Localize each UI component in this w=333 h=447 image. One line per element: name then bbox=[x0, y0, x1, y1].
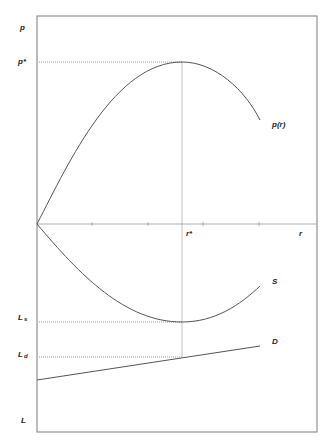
diagram-canvas: p p* p(r) r* r S D L s L d L bbox=[0, 0, 333, 447]
p-star-label: p* bbox=[17, 57, 27, 66]
l-d-label-main: L bbox=[18, 350, 23, 359]
d-line-label: D bbox=[272, 337, 278, 346]
l-s-label: L s bbox=[18, 313, 28, 322]
p-curve bbox=[37, 62, 260, 224]
l-s-label-main: L bbox=[18, 313, 23, 322]
r-star-label: r* bbox=[186, 229, 193, 238]
s-curve-label: S bbox=[272, 277, 278, 286]
d-line bbox=[37, 346, 260, 380]
l-d-label-sub: d bbox=[24, 353, 28, 359]
l-d-label: L d bbox=[18, 350, 28, 359]
p-curve-label: p(r) bbox=[271, 120, 286, 129]
l-s-label-sub: s bbox=[24, 316, 28, 322]
l-axis-label: L bbox=[21, 416, 26, 425]
s-curve bbox=[37, 224, 260, 322]
p-axis-label: p bbox=[19, 23, 25, 32]
r-axis-label: r bbox=[299, 229, 303, 238]
